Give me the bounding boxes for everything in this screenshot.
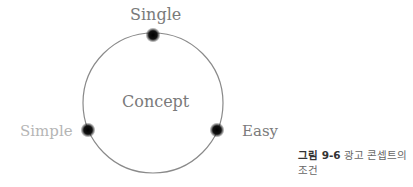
node-label-single: Single <box>130 5 181 24</box>
center-label-concept: Concept <box>122 92 189 111</box>
figure-caption: 그림 9-6 광고 콘셉트의 조건 <box>298 148 408 178</box>
node-label-easy: Easy <box>242 122 278 140</box>
node-easy-dot <box>210 123 225 138</box>
node-single-dot <box>146 28 161 43</box>
node-label-simple: Simple <box>20 122 73 140</box>
node-simple-dot <box>81 123 96 138</box>
figure-number: 그림 9-6 <box>298 149 341 161</box>
